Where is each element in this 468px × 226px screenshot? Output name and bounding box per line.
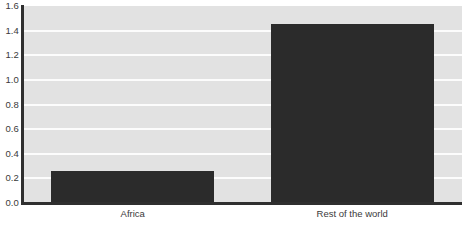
y-axis-line (21, 5, 24, 204)
y-axis-tick-label: 0.6 (0, 124, 19, 134)
y-axis-tick-label: 1.6 (0, 1, 19, 11)
x-axis-tick-label: Africa (121, 209, 145, 219)
y-axis-tick-label: 1.2 (0, 51, 19, 61)
y-axis-tick-label: 0.0 (0, 198, 19, 208)
y-axis-tick-labels: 1.6 1.4 1.2 1.0 0.8 0.6 0.4 0.2 0.0 (0, 0, 19, 226)
plot-area (23, 6, 462, 203)
y-axis-tick-label: 0.2 (0, 174, 19, 184)
bar-chart: 1.6 1.4 1.2 1.0 0.8 0.6 0.4 0.2 0.0 Afri… (0, 0, 468, 226)
bar (271, 24, 434, 203)
y-axis-tick-label: 0.8 (0, 100, 19, 110)
y-axis-tick-label: 1.4 (0, 26, 19, 36)
y-axis-tick-label: 1.0 (0, 75, 19, 85)
bar (51, 171, 214, 203)
x-axis-line (21, 202, 462, 205)
x-axis-tick-label: Rest of the world (317, 209, 388, 219)
y-axis-tick-label: 0.4 (0, 149, 19, 159)
